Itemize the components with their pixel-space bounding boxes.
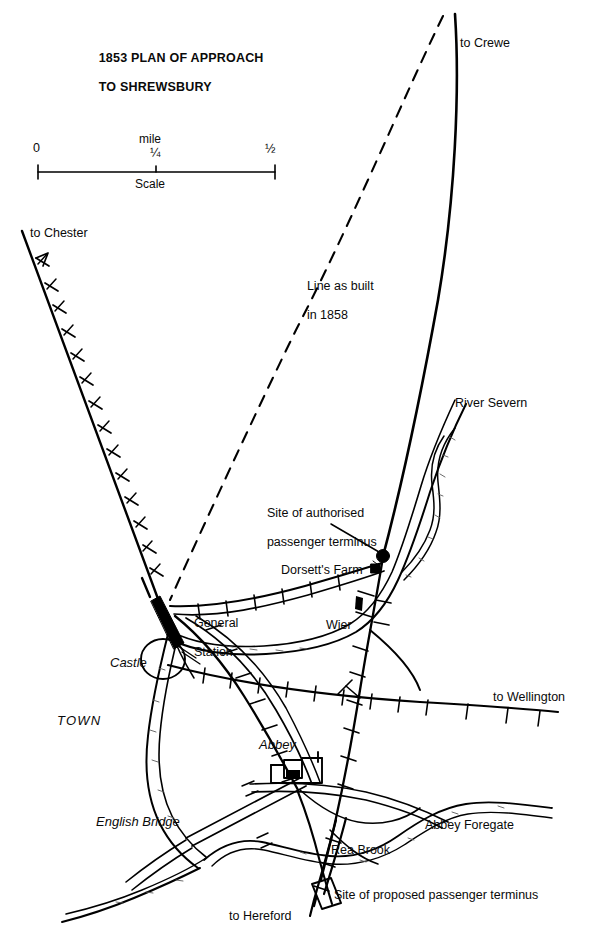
annotation-proposed-terminus: Site of proposed passenger terminus: [334, 888, 538, 903]
wier-symbol: [355, 596, 363, 611]
annotation-authorised-terminus-line-2: passenger terminus: [267, 535, 377, 549]
historical-map-figure: 1853 PLAN OF APPROACH TO SHREWSBURY 0 mi…: [0, 0, 591, 936]
railway-curve-east-loop: [370, 630, 420, 690]
scale-tick-label-quarter: ¼: [150, 146, 160, 161]
river-severn-loop: [402, 428, 455, 580]
label-english-bridge: English Bridge: [96, 814, 180, 829]
label-general-station: General Station: [180, 601, 238, 675]
label-to-chester: to Chester: [30, 226, 88, 241]
railway-to-crewe: [382, 14, 457, 560]
annotation-authorised-terminus: Site of authorised passenger terminus: [253, 491, 377, 565]
railway-ticks-chester: [36, 253, 163, 576]
railway-ticks-authorised-north: [374, 600, 391, 625]
label-rea-brook: Rea Brook: [331, 843, 390, 858]
annotation-line-as-built-line-2: in 1858: [307, 308, 348, 322]
scale-tick-label-half: ½: [265, 142, 275, 157]
railway-to-chester: [22, 231, 161, 607]
page-title-line-2: TO SHREWSBURY: [99, 80, 212, 94]
map-linework: [0, 0, 591, 936]
page-title-line-1: 1853 PLAN OF APPROACH: [99, 51, 264, 65]
label-abbey: Abbey: [259, 737, 296, 752]
scale-tick-label-0: 0: [33, 141, 40, 156]
label-river-severn: River Severn: [455, 396, 527, 411]
label-dorsetts-farm: Dorsett's Farm: [281, 563, 363, 578]
label-to-hereford: to Hereford: [229, 909, 292, 924]
annotation-line-as-built: Line as built in 1858: [293, 264, 374, 338]
label-to-crewe: to Crewe: [460, 36, 510, 51]
label-general-station-line-1: General: [194, 616, 238, 630]
station-approach-stub: [142, 578, 150, 597]
scale-caption: Scale: [135, 177, 165, 191]
road-english-bridge: [186, 778, 306, 846]
label-abbey-foregate: Abbey Foregate: [425, 818, 514, 833]
label-town: TOWN: [57, 713, 101, 728]
label-general-station-line-2: Station: [194, 645, 233, 659]
label-castle: Castle: [110, 655, 147, 670]
road-abbey-foregate: [250, 783, 448, 828]
label-wier: Wier: [326, 618, 352, 633]
river-hatch-town-west: [150, 668, 174, 818]
scale-unit-label: mile: [139, 132, 161, 146]
page-title: 1853 PLAN OF APPROACH TO SHREWSBURY: [84, 36, 264, 110]
label-to-wellington: to Wellington: [493, 690, 565, 705]
annotation-line-as-built-line-1: Line as built: [307, 279, 374, 293]
annotation-authorised-terminus-line-1: Site of authorised: [267, 506, 364, 520]
